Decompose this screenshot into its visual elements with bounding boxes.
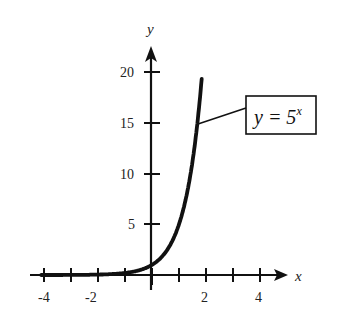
x-axis-label: x [294,268,302,284]
exponential-chart: -4 -2 2 4 x 20 15 10 5 y y = 5x [0,0,339,326]
x-tick-label: 4 [255,290,262,305]
y-tick-label: 10 [120,167,134,182]
x-tick-label: 2 [201,290,208,305]
y-axis-label: y [145,21,154,37]
y-tick-label: 5 [128,217,135,232]
callout-pointer-line [198,108,246,124]
y-tick-label: 15 [120,116,134,131]
equation-callout: y = 5x [198,96,316,134]
y-axis: 20 15 10 5 y [120,21,160,290]
equation-label: y = 5x [252,104,302,129]
y-tick-label: 20 [120,65,134,80]
x-tick-label: -4 [38,290,50,305]
x-tick-label: -2 [85,290,97,305]
